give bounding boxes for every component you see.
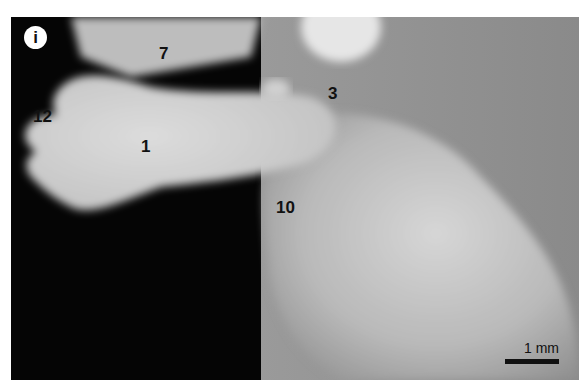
structure-label-12: 12 — [33, 108, 52, 125]
structure-label-10: 10 — [276, 199, 295, 216]
specimen-illustration — [11, 17, 579, 380]
panel-label-badge: i — [24, 26, 47, 49]
scale-bar-label: 1 mm — [524, 340, 559, 356]
structure-label-7: 7 — [159, 45, 168, 62]
structure-label-3: 3 — [328, 85, 337, 102]
specimen-photo: i 7 3 12 1 10 1 mm — [11, 17, 579, 380]
scale-bar — [505, 359, 559, 364]
structure-label-1: 1 — [141, 138, 150, 155]
